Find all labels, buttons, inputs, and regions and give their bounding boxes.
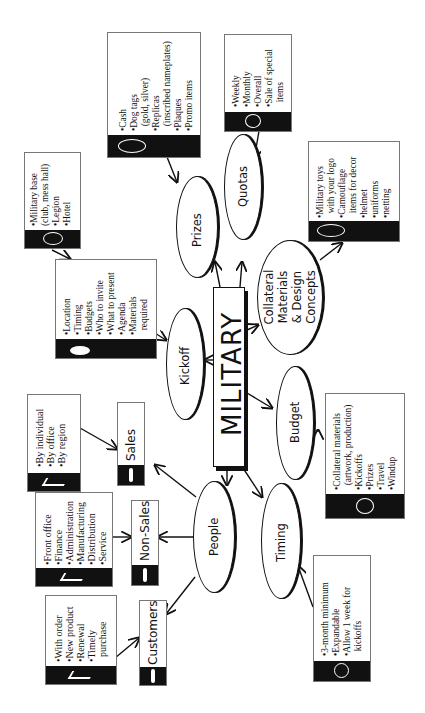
collateral-box: •Military toys with your logo •Camouflag…	[308, 141, 400, 242]
center-node-title: MILITARY	[217, 312, 247, 436]
checkmark-icon	[68, 671, 95, 679]
collateral-list: •Military toys with your logo •Camouflag…	[315, 157, 392, 218]
sales-criteria-list: •By individual •By office •By region	[34, 409, 67, 467]
nonsales-departments-list: •Front office •Finance •Administration •…	[42, 501, 108, 565]
node-prizes[interactable]: Prizes	[176, 176, 218, 278]
node-people[interactable]: People	[193, 481, 235, 593]
node-prizes-label: Prizes	[190, 213, 204, 247]
person-icon	[151, 669, 155, 683]
nonsales-box[interactable]: Non-Sales	[131, 500, 159, 586]
customers-triggers-list: •With order •New product •Renewal •Timel…	[53, 607, 108, 662]
sales-label: Sales	[124, 429, 138, 461]
node-collateral-materials[interactable]: Collateral Materials & Design Concepts	[257, 240, 323, 355]
timing-box: •3-month minimum •Expandable •Allow 1 we…	[313, 555, 371, 682]
node-budget[interactable]: Budget	[276, 366, 314, 480]
node-timing-label: Timing	[274, 523, 288, 562]
money-icon	[356, 498, 374, 514]
kickoff-details-list: •Location •Timing •Budgets •Who to invit…	[62, 272, 150, 335]
lightbulb-icon	[43, 232, 63, 245]
prizes-list: •Cash •Dog tags (gold, silver) •Replicas…	[118, 41, 195, 131]
customers-box[interactable]: Customers	[139, 600, 167, 686]
center-node-military-face: MILITARY	[213, 287, 245, 467]
money-icon	[245, 114, 261, 128]
prizes-box: •Cash •Dog tags (gold, silver) •Replicas…	[107, 32, 201, 158]
node-collateral-label: Collateral Materials & Design Concepts	[262, 261, 318, 333]
customers-triggers-box: •With order •New product •Renewal •Timel…	[45, 595, 117, 685]
kickoff-venue-box: •Military base (club, mess hall) •Legion…	[24, 152, 81, 249]
clock-icon	[334, 663, 349, 678]
node-timing[interactable]: Timing	[261, 483, 301, 599]
node-quotas[interactable]: Quotas	[224, 134, 262, 240]
node-kickoff-label: Kickoff	[178, 347, 192, 385]
budget-box: •Collateral materials (artwork, producti…	[325, 393, 405, 519]
lightbulb-icon	[317, 224, 345, 237]
person-icon	[143, 568, 147, 582]
quotas-box: •Weekly •Monthly •Overall •Sale of speci…	[224, 34, 292, 132]
checkmark-icon	[60, 573, 87, 581]
quotas-list: •Weekly •Monthly •Overall •Sale of speci…	[231, 49, 286, 107]
budget-list: •Collateral materials (artwork, producti…	[332, 405, 398, 490]
nonsales-departments-box: •Front office •Finance •Administration •…	[35, 492, 113, 587]
kickoff-venue-list: •Military base (club, mess hall) •Legion…	[29, 164, 73, 226]
lightbulb-icon	[118, 139, 146, 153]
node-quotas-label: Quotas	[236, 166, 250, 207]
kickoff-details-box: •Location •Timing •Budgets •Who to invit…	[55, 259, 157, 359]
timing-list: •3-month minimum •Expandable •Allow 1 we…	[320, 582, 364, 656]
customers-label: Customers	[146, 600, 160, 665]
sales-criteria-box: •By individual •By office •By region	[27, 394, 81, 492]
node-kickoff[interactable]: Kickoff	[166, 308, 204, 420]
hand-pointing-icon	[70, 346, 90, 355]
checkmark-icon	[42, 478, 69, 486]
person-icon	[129, 468, 133, 482]
sales-box[interactable]: Sales	[117, 402, 145, 486]
node-budget-label: Budget	[288, 402, 302, 443]
node-people-label: People	[207, 518, 221, 556]
nonsales-label: Non-Sales	[138, 501, 152, 561]
